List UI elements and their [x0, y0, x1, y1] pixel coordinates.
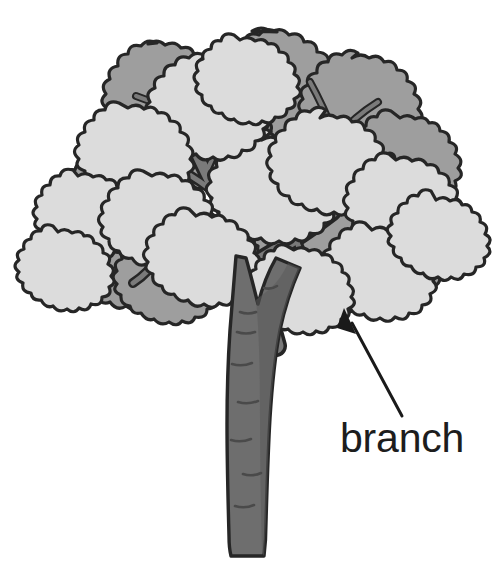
trunk — [227, 256, 300, 556]
figure-canvas: branch — [0, 0, 502, 572]
tree-illustration: branch — [0, 0, 502, 572]
branch-label: branch — [340, 415, 464, 461]
arrow-shaft — [352, 323, 402, 416]
branch-arrow — [337, 308, 402, 416]
